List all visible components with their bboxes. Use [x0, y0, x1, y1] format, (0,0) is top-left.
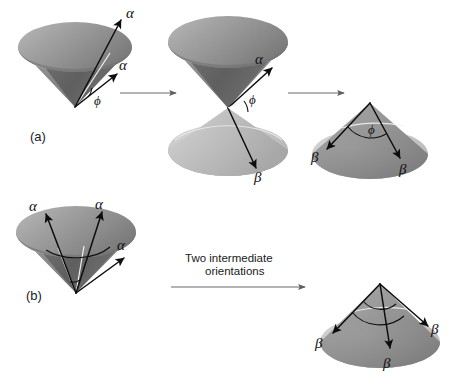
caption-line-2: orientations	[205, 265, 265, 277]
panel-label-b: (b)	[26, 288, 42, 303]
cone-b-right-front	[320, 284, 440, 368]
cone-b-right: β β β	[314, 284, 440, 371]
figure-canvas: α α ϕ (a)	[0, 0, 457, 387]
cone-a-left: α α ϕ	[18, 5, 135, 108]
label-beta-b-right-1: β	[314, 335, 323, 351]
label-phi-a-right: ϕ	[368, 122, 375, 137]
label-beta-b-right-3: β	[430, 321, 439, 337]
label-alpha-a-left-inner: α	[119, 57, 128, 73]
label-beta-a-middle: β	[253, 169, 262, 185]
label-alpha-b-left-2: α	[95, 196, 104, 212]
label-alpha-a-left-outer: α	[126, 5, 135, 21]
cone-a-middle-double: α ϕ β	[168, 16, 288, 185]
cone-a-middle-phi-arc	[244, 101, 248, 112]
panel-label-a: (a)	[30, 129, 46, 144]
cone-a-right-front	[312, 103, 428, 179]
label-alpha-b-left-3: α	[117, 237, 126, 253]
label-beta-b-right-2: β	[382, 355, 391, 371]
intermediate-orientations-arrow: Two intermediate orientations	[171, 252, 305, 287]
label-phi-a-left: ϕ	[94, 93, 101, 108]
label-beta-a-right-left: β	[310, 149, 319, 165]
cone-b-left: α α α	[16, 196, 136, 293]
caption-line-1: Two intermediate	[185, 252, 273, 264]
cone-a-right: β ϕ β	[310, 103, 428, 179]
cone-a-middle-lower-front	[168, 108, 288, 176]
cone-orientation-figure: α α ϕ (a)	[0, 0, 457, 387]
label-alpha-a-middle: α	[255, 51, 264, 67]
label-alpha-b-left-1: α	[29, 198, 38, 214]
label-beta-a-right-right: β	[398, 161, 407, 177]
label-phi-a-middle: ϕ	[249, 92, 256, 107]
